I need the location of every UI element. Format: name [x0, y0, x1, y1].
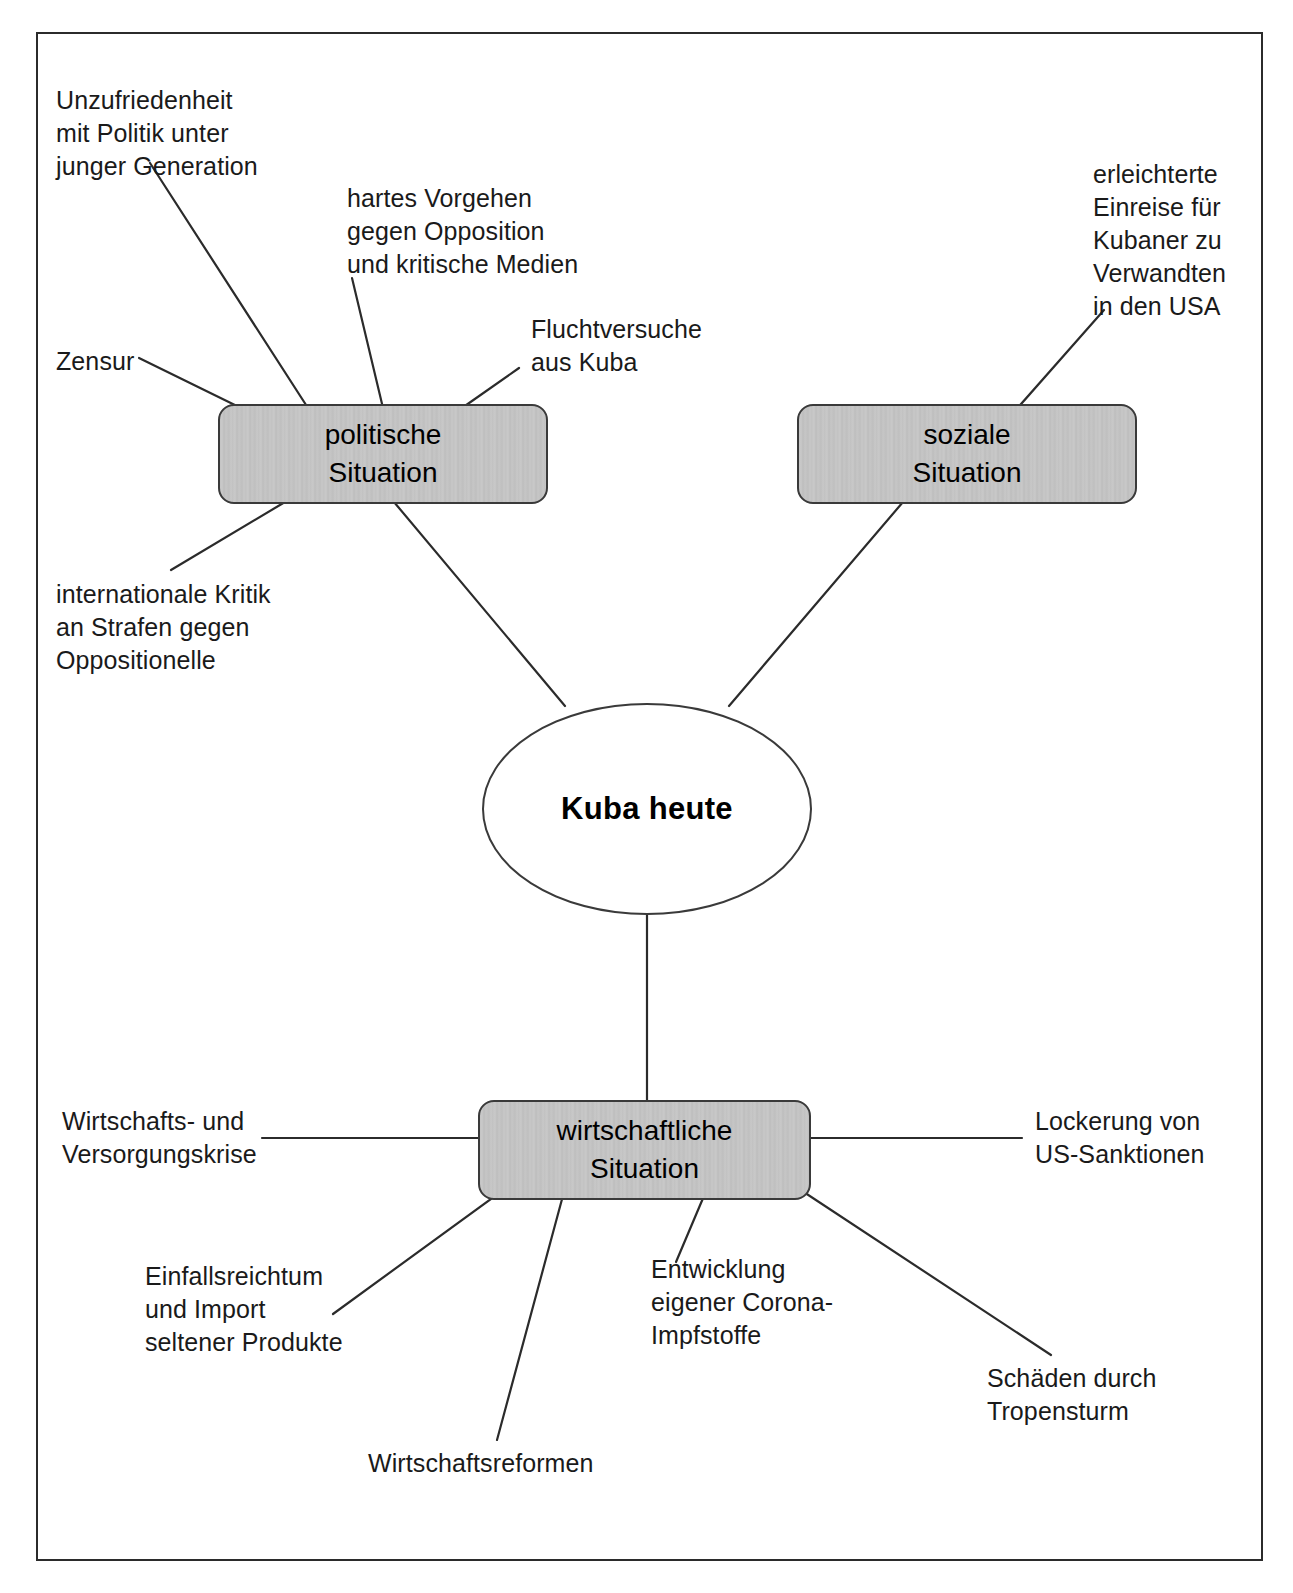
leaf-erleichterte-einreise: erleichterte Einreise für Kubaner zu Ver…	[1093, 158, 1283, 323]
leaf-unzufriedenheit: Unzufriedenheit mit Politik unter junger…	[56, 84, 356, 183]
node-wirtschaftliche-situation[interactable]: wirtschaftliche Situation	[478, 1100, 811, 1200]
node-politische-situation[interactable]: politische Situation	[218, 404, 548, 504]
leaf-schaeden-tropensturm: Schäden durch Tropensturm	[987, 1362, 1247, 1428]
node-center-kuba-heute[interactable]: Kuba heute	[482, 703, 812, 915]
leaf-lockerung-us-sanktionen: Lockerung von US-Sanktionen	[1035, 1105, 1265, 1171]
leaf-hartes-vorgehen: hartes Vorgehen gegen Opposition und kri…	[347, 182, 677, 281]
node-soziale-line2: Situation	[913, 454, 1022, 492]
center-label: Kuba heute	[561, 791, 733, 827]
node-wirtschaftliche-line2: Situation	[590, 1150, 699, 1188]
node-politische-line1: politische	[325, 416, 442, 454]
leaf-wirtschafts-versorgungskrise: Wirtschafts- und Versorgungskrise	[62, 1105, 312, 1171]
node-soziale-line1: soziale	[923, 416, 1010, 454]
leaf-einfallsreichtum-import: Einfallsreichtum und Import seltener Pro…	[145, 1260, 425, 1359]
leaf-fluchtversuche: Fluchtversuche aus Kuba	[531, 313, 781, 379]
node-politische-line2: Situation	[329, 454, 438, 492]
leaf-wirtschaftsreformen: Wirtschaftsreformen	[368, 1447, 668, 1480]
leaf-internationale-kritik: internationale Kritik an Strafen gegen O…	[56, 578, 346, 677]
node-wirtschaftliche-line1: wirtschaftliche	[557, 1112, 733, 1150]
node-soziale-situation[interactable]: soziale Situation	[797, 404, 1137, 504]
leaf-zensur: Zensur	[56, 345, 216, 378]
mindmap-canvas: politische Situation soziale Situation w…	[0, 0, 1293, 1593]
leaf-corona-impfstoffe: Entwicklung eigener Corona- Impfstoffe	[651, 1253, 911, 1352]
